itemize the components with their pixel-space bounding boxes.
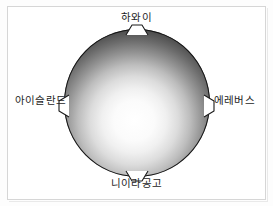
hotspot-label-erebus: 에레버스 <box>214 94 255 107</box>
hotspot-label-hawaii: 하와이 <box>0 11 273 24</box>
sphere-diagram <box>64 29 210 177</box>
figure-root: 하와이 에레버스 니이라공고 아이슬란드 <box>0 0 273 206</box>
sphere-outline <box>64 29 210 177</box>
hotspot-label-iceland: 아이슬란드 <box>15 94 66 107</box>
hotspot-label-nyiragongo: 니이라공고 <box>0 177 273 190</box>
